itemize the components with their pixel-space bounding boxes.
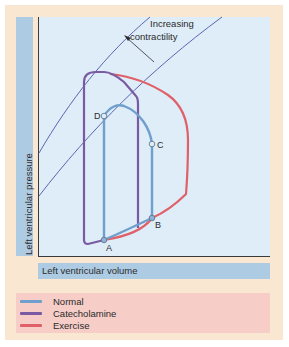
legend-item-normal: Normal	[20, 295, 84, 307]
x-axis-label: Left ventricular volume	[42, 265, 138, 276]
catecholamine-loop	[84, 72, 138, 244]
y-axis-label: Left ventricular pressure	[24, 153, 34, 255]
point-b-label: B	[155, 220, 161, 230]
legend-swatch-exercise	[20, 324, 42, 327]
normal-loop	[104, 105, 152, 240]
point-a-marker	[101, 237, 107, 243]
annotation-line1: Increasing	[150, 18, 194, 29]
point-d-label: D	[94, 111, 101, 121]
legend-item-catecholamine: Catecholamine	[20, 307, 116, 319]
point-a-label: A	[106, 243, 112, 253]
legend-label: Catecholamine	[53, 308, 116, 319]
legend-label: Exercise	[53, 320, 89, 331]
point-c-label: C	[157, 140, 164, 150]
legend-item-exercise: Exercise	[20, 319, 89, 331]
contractility-line-normal	[39, 17, 222, 196]
point-b-marker	[149, 215, 155, 221]
point-d-marker	[101, 113, 107, 119]
legend-swatch-catecholamine	[20, 312, 42, 315]
legend-swatch-normal	[20, 300, 42, 303]
exercise-loop	[104, 74, 188, 240]
point-c-marker	[149, 141, 155, 147]
legend-label: Normal	[53, 296, 84, 307]
annotation-line2: contractility	[130, 31, 178, 42]
legend: Normal Catecholamine Exercise	[16, 293, 270, 333]
